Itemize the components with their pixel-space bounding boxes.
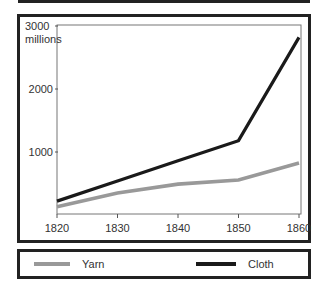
legend-label-yarn: Yarn [82,258,104,270]
cloth-swatch-icon [196,262,236,266]
line-chart: 18201830184018501860100020003000millions [0,0,318,286]
x-tick-label: 1860 [287,222,311,234]
legend-item-yarn: Yarn [34,252,104,276]
legend-label-cloth: Cloth [248,258,274,270]
y-tick-label: 3000 [25,20,49,32]
x-tick-label: 1850 [226,222,250,234]
x-tick-label: 1840 [166,222,190,234]
x-tick-label: 1830 [105,222,129,234]
series-line-yarn [57,163,299,207]
y-unit-label: millions [25,33,62,45]
series-line-cloth [57,37,299,201]
x-tick-label: 1820 [45,222,69,234]
axis-labels: 18201830184018501860100020003000millions [25,20,311,234]
legend: Yarn Cloth [17,249,311,279]
yarn-swatch-icon [34,262,70,266]
y-tick-label: 2000 [29,83,53,95]
y-tick-label: 1000 [29,146,53,158]
series-lines [57,37,299,206]
legend-item-cloth: Cloth [196,252,274,276]
